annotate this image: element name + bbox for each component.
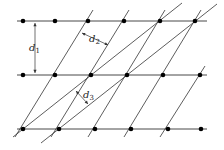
lattice-point <box>199 127 204 132</box>
lattice-point <box>89 73 94 78</box>
steep-lattice-planes <box>15 10 205 137</box>
lattice-point <box>57 127 62 132</box>
lattice-point <box>53 19 58 24</box>
lattice-point <box>161 73 166 78</box>
lattice-point <box>122 19 127 24</box>
lattice-point <box>129 127 134 132</box>
lattice-point <box>93 127 98 132</box>
spacing-dimension-markers <box>33 23 108 104</box>
shallow-plane-line <box>13 3 182 137</box>
arrowhead-icon <box>33 70 36 73</box>
lattice-point <box>166 127 171 132</box>
shallow-plane-line <box>41 4 217 143</box>
lattice-point <box>198 73 203 78</box>
lattice-point <box>193 19 198 24</box>
lattice-point <box>53 73 58 78</box>
lattice-point <box>21 127 26 132</box>
label-d1: d1 <box>29 42 40 55</box>
lattice-point <box>21 19 26 24</box>
steep-plane-line <box>160 66 205 137</box>
label-d2: d2 <box>89 33 100 46</box>
lattice-diagram: d1 d2 d3 <box>0 0 224 150</box>
shallow-lattice-planes <box>13 3 217 143</box>
diagram-svg: d1 d2 d3 <box>0 0 224 150</box>
lattice-point <box>125 73 130 78</box>
arrowhead-icon <box>33 23 36 26</box>
lattice-point <box>21 73 26 78</box>
lattice-point <box>86 19 91 24</box>
lattice-point <box>158 19 163 24</box>
